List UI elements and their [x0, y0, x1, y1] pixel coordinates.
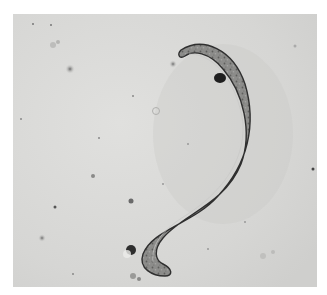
micrograph-frame	[13, 14, 317, 287]
dark-blob	[214, 73, 226, 83]
micrograph-image	[13, 14, 317, 287]
